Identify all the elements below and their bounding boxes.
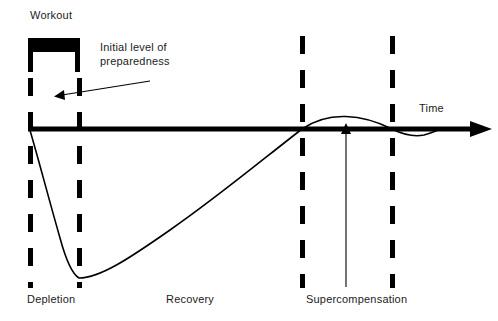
time-axis-label: Time	[419, 101, 444, 115]
workout-left-leg	[28, 52, 33, 72]
supercompensation-diagram: Workout Initial level of preparedness Ti…	[0, 0, 498, 321]
workout-marker	[28, 38, 80, 72]
initial-level-pointer	[54, 81, 150, 100]
phase-label-supercompensation: Supercompensation	[306, 292, 407, 306]
diagram-canvas	[0, 0, 498, 321]
workout-label: Workout	[30, 8, 72, 22]
phase-label-depletion: Depletion	[27, 292, 75, 306]
phase-label-recovery: Recovery	[166, 292, 214, 306]
initial-level-pointer-head	[54, 90, 65, 100]
initial-level-label: Initial level of preparedness	[100, 40, 186, 68]
supercompensation-pointer	[341, 123, 351, 287]
workout-bar	[28, 38, 80, 52]
phase-boundary-lines	[31, 36, 393, 288]
initial-level-pointer-shaft	[62, 81, 150, 95]
workout-right-leg	[75, 52, 80, 72]
preparedness-curve	[29, 116, 476, 278]
